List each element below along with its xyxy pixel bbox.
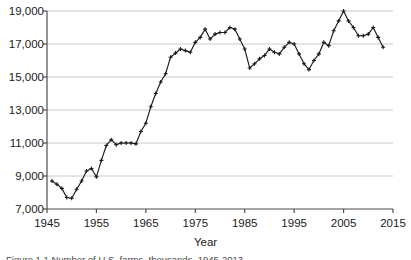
y-tick-label: 11,000 <box>0 137 44 149</box>
data-series-group <box>50 9 385 200</box>
x-tick-label: 1965 <box>126 217 166 229</box>
data-point-marker <box>124 141 128 145</box>
data-point-marker <box>233 27 237 31</box>
chart-figure: 7,0009,00011,00013,00015,00017,00019,000… <box>0 0 411 260</box>
data-point-marker <box>99 158 103 162</box>
y-tick-label: 9,000 <box>0 170 44 182</box>
data-point-marker <box>188 50 192 54</box>
x-tick-label: 2005 <box>324 217 364 229</box>
y-tick-label: 7,000 <box>0 203 44 215</box>
y-tick-label: 19,000 <box>0 5 44 17</box>
x-tick-label: 1985 <box>225 217 265 229</box>
data-point-marker <box>218 30 222 34</box>
x-tick-label: 1945 <box>27 217 67 229</box>
data-point-marker <box>134 142 138 146</box>
data-point-marker <box>381 45 385 49</box>
x-tick-label: 1995 <box>274 217 314 229</box>
y-tick-label: 13,000 <box>0 104 44 116</box>
figure-caption: Figure 1.1 Number of U.S. farms, thousan… <box>6 255 266 260</box>
data-point-marker <box>376 35 380 39</box>
x-tick-label: 2015 <box>373 217 411 229</box>
data-point-marker <box>154 92 158 96</box>
data-point-marker <box>149 105 153 109</box>
x-axis-title: Year <box>0 236 411 248</box>
data-point-marker <box>337 19 341 23</box>
data-point-marker <box>183 49 187 53</box>
data-point-marker <box>119 141 123 145</box>
y-tick-label: 17,000 <box>0 38 44 50</box>
y-tick-label: 15,000 <box>0 71 44 83</box>
data-point-marker <box>292 42 296 46</box>
data-point-marker <box>361 34 365 38</box>
data-point-marker <box>342 9 346 13</box>
data-point-marker <box>297 52 301 56</box>
x-tick-label: 1975 <box>175 217 215 229</box>
data-point-marker <box>85 169 89 173</box>
data-point-marker <box>238 37 242 41</box>
series-line <box>52 11 383 198</box>
gridlines-group <box>47 11 393 176</box>
data-point-marker <box>332 29 336 33</box>
series-markers <box>50 9 385 200</box>
x-tick-marks <box>47 209 393 213</box>
x-tick-label: 1955 <box>76 217 116 229</box>
data-point-marker <box>129 141 133 145</box>
data-point-marker <box>243 47 247 51</box>
